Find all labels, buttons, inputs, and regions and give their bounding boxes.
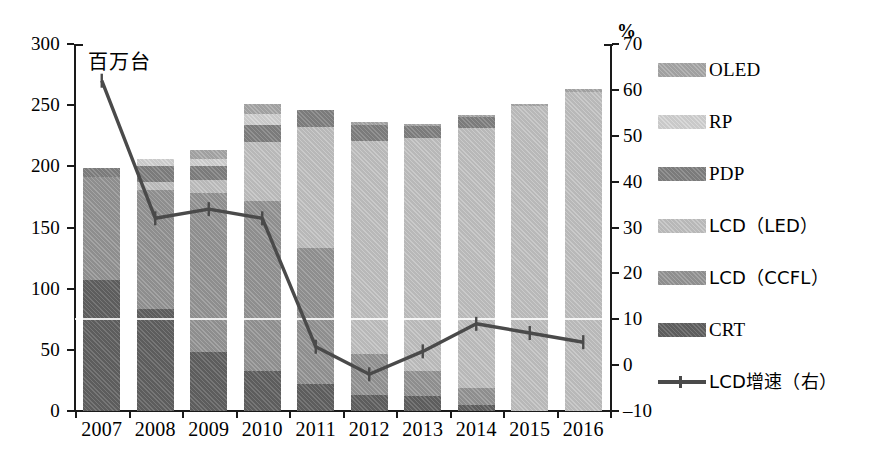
bar-segment-CRT [244, 371, 281, 411]
y-axis-right-tick [612, 410, 619, 412]
bar-segment-LCD-LED- [404, 138, 441, 370]
y-axis-left-tick-label: 250 [4, 95, 60, 114]
y-axis-left-tick-label: 300 [4, 34, 60, 53]
legend-label: OLED [709, 60, 760, 80]
bar-segment-OLED [511, 104, 548, 106]
bar-segment-OLED [190, 150, 227, 159]
bar-segment-CRT [190, 352, 227, 411]
bar-2010 [244, 44, 281, 411]
y-axis-right-tick [612, 272, 619, 274]
y-axis-right-tick [612, 89, 619, 91]
legend-swatch-line-icon [658, 375, 706, 389]
y-axis-left-tick [67, 104, 74, 106]
legend-item-crt[interactable]: CRT [658, 304, 873, 356]
y-axis-left-tick-label: 0 [4, 401, 60, 420]
y-axis-left-tick [67, 410, 74, 412]
legend-swatch-led-icon [658, 219, 706, 233]
bar-2007 [83, 44, 120, 411]
x-axis-tick-label: 2007 [72, 418, 132, 440]
bar-segment-PDP [137, 166, 174, 182]
x-axis-tick-label: 2014 [446, 418, 506, 440]
x-axis-tick-label: 2010 [232, 418, 292, 440]
bar-segment-LCD-LED- [190, 180, 227, 193]
legend-label: PDP [709, 164, 744, 184]
legend-label: LCD（CCFL） [709, 268, 829, 288]
bar-segment-PDP [404, 126, 441, 138]
bar-segment-LCD-CCFL- [137, 190, 174, 310]
legend-swatch-pdp-icon [658, 167, 706, 181]
legend-item-rp[interactable]: RP [658, 96, 873, 148]
legend-item-line[interactable]: LCD增速（右） [658, 356, 873, 408]
bar-segment-LCD-CCFL- [244, 201, 281, 371]
bar-segment-RP [137, 159, 174, 166]
x-axis-tick-label: 2015 [500, 418, 560, 440]
legend-swatch-oled-icon [658, 63, 706, 77]
legend-item-ccfl[interactable]: LCD（CCFL） [658, 252, 873, 304]
legend-label: CRT [709, 320, 745, 340]
bar-segment-LCD-CCFL- [83, 177, 120, 280]
bar-segment-LCD-CCFL- [458, 388, 495, 405]
y-axis-left-tick-label: 50 [4, 340, 60, 359]
bar-segment-OLED [244, 104, 281, 114]
bar-2011 [297, 44, 334, 411]
bar-segment-CRT [297, 384, 334, 411]
bar-2009 [190, 44, 227, 411]
legend-label: LCD增速（右） [709, 372, 837, 392]
chart-legend: OLEDRPPDPLCD（LED）LCD（CCFL）CRTLCD增速（右） [658, 44, 873, 408]
chart-figure: 300250200150100500 706050403020100–10 % … [0, 0, 878, 455]
y-axis-left-tick-label: 150 [4, 218, 60, 237]
y-axis-left-tick [67, 43, 74, 45]
legend-item-oled[interactable]: OLED [658, 44, 873, 96]
x-axis-tick-label: 2016 [553, 418, 613, 440]
bar-segment-RP [190, 159, 227, 166]
scan-artifact-band [75, 318, 610, 320]
bar-segment-PDP [244, 125, 281, 142]
legend-swatch-ccfl-icon [658, 271, 706, 285]
bar-2013 [404, 44, 441, 411]
bar-segment-PDP [458, 117, 495, 128]
y-axis-left-tick [67, 349, 74, 351]
y-axis-left-tick-label: 100 [4, 279, 60, 298]
bar-segment-LCD-LED- [565, 92, 602, 411]
bar-segment-LCD-CCFL- [297, 248, 334, 384]
bar-2016 [565, 44, 602, 411]
bar-segment-PDP [351, 125, 388, 141]
bar-segment-OLED [565, 89, 602, 91]
plot-area [75, 44, 610, 411]
legend-label: RP [709, 112, 733, 132]
y-axis-left-tick-label: 200 [4, 156, 60, 175]
legend-swatch-crt-icon [658, 323, 706, 337]
bar-segment-LCD-CCFL- [190, 193, 227, 352]
x-axis-tick-label: 2011 [286, 418, 346, 440]
bar-segment-PDP [297, 110, 334, 127]
legend-label: LCD（LED） [709, 216, 818, 236]
bar-segment-PDP [190, 166, 227, 179]
bar-segment-LCD-LED- [351, 141, 388, 354]
bar-segment-RP [244, 114, 281, 125]
bar-segment-LCD-LED- [137, 182, 174, 189]
bar-2012 [351, 44, 388, 411]
bar-segment-OLED [458, 115, 495, 117]
bar-segment-OLED [351, 122, 388, 124]
bar-2014 [458, 44, 495, 411]
bar-segment-LCD-LED- [244, 142, 281, 201]
x-axis-tick-label: 2013 [393, 418, 453, 440]
y-axis-left-tick [67, 165, 74, 167]
legend-swatch-rp-icon [658, 115, 706, 129]
legend-item-led[interactable]: LCD（LED） [658, 200, 873, 252]
bar-segment-CRT [83, 280, 120, 411]
bar-segment-LCD-LED- [458, 128, 495, 387]
y-axis-right-tick [612, 181, 619, 183]
y-axis-left-tick [67, 227, 74, 229]
bar-segment-LCD-LED- [511, 106, 548, 411]
y-axis-right-tick [612, 364, 619, 366]
bar-segment-LCD-LED- [297, 127, 334, 248]
bar-segment-CRT [458, 405, 495, 411]
y-axis-right-tick [612, 43, 619, 45]
y-axis-right-tick [612, 135, 619, 137]
bar-segment-CRT [137, 309, 174, 411]
bar-2015 [511, 44, 548, 411]
bar-segment-LCD-CCFL- [351, 354, 388, 396]
bar-segment-CRT [351, 395, 388, 411]
legend-item-pdp[interactable]: PDP [658, 148, 873, 200]
